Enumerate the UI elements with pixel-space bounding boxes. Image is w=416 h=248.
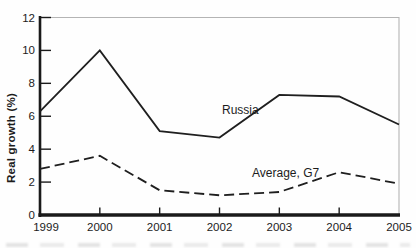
y-axis-ticks (41, 18, 51, 183)
chart-figure: 024681012 1999200020012002200320042005 R… (0, 0, 416, 248)
x-tick-label: 2001 (147, 221, 173, 233)
y-tick-label: 10 (22, 44, 35, 56)
y-axis-tick-labels: 024681012 (22, 12, 35, 222)
plot-frame (40, 18, 399, 216)
x-tick-label: 1999 (33, 221, 59, 233)
series-line-average-g7 (40, 156, 399, 196)
x-tick-label: 2000 (87, 221, 113, 233)
x-tick-label: 2005 (386, 221, 412, 233)
series-label-average-g7: Average, G7 (252, 166, 319, 180)
y-axis-title: Real growth (%) (5, 93, 17, 183)
y-tick-label: 6 (29, 110, 35, 122)
x-tick-label: 2004 (326, 221, 352, 233)
y-tick-label: 0 (29, 209, 35, 221)
x-tick-label: 2002 (207, 221, 233, 233)
line-chart: 024681012 1999200020012002200320042005 R… (0, 0, 416, 248)
series-label-russia: Russia (222, 103, 259, 117)
y-tick-label: 8 (29, 77, 35, 89)
x-tick-label: 2003 (267, 221, 293, 233)
x-axis-tick-labels: 1999200020012002200320042005 (33, 221, 412, 233)
series-line-russia (40, 50, 399, 137)
y-tick-label: 2 (29, 176, 35, 188)
y-tick-label: 12 (22, 12, 35, 24)
y-tick-label: 4 (29, 143, 36, 155)
